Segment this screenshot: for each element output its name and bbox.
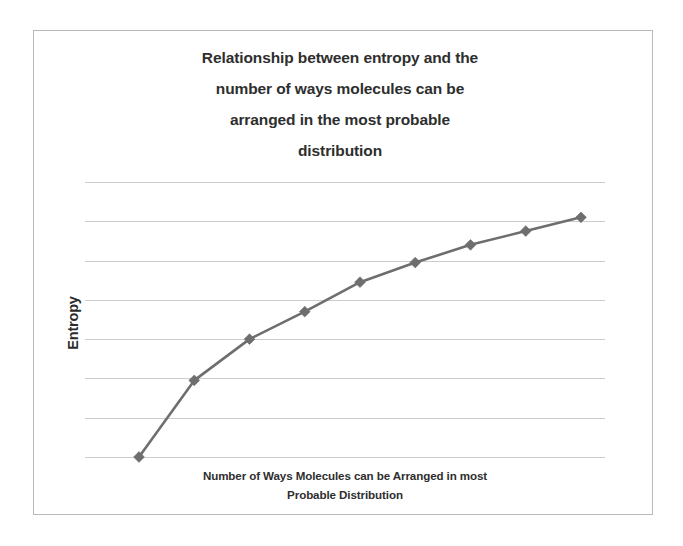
- data-point-marker: [410, 257, 421, 268]
- chart-title-line-2: number of ways molecules can be: [120, 73, 560, 104]
- entropy-line: [139, 217, 581, 457]
- data-point-marker: [355, 277, 366, 288]
- chart-title-line-3: arranged in the most probable: [120, 104, 560, 135]
- data-point-marker: [520, 226, 531, 237]
- x-axis-title-line-1: Number of Ways Molecules can be Arranged…: [110, 466, 580, 485]
- chart-title: Relationship between entropy and the num…: [120, 42, 560, 166]
- data-point-marker: [299, 306, 310, 317]
- data-point-marker: [465, 239, 476, 250]
- x-axis-title-line-2: Probable Distribution: [110, 485, 580, 504]
- entropy-markers-group: [134, 212, 587, 462]
- y-axis-title-label: Entropy: [65, 296, 81, 349]
- data-point-marker: [576, 212, 587, 223]
- x-axis-title: Number of Ways Molecules can be Arranged…: [110, 466, 580, 504]
- plot-area: [85, 182, 605, 458]
- chart-figure: Relationship between entropy and the num…: [0, 0, 683, 546]
- chart-title-line-4: distribution: [120, 135, 560, 166]
- entropy-series: [85, 182, 605, 458]
- chart-title-line-1: Relationship between entropy and the: [120, 42, 560, 73]
- y-axis-title: Entropy: [64, 275, 82, 370]
